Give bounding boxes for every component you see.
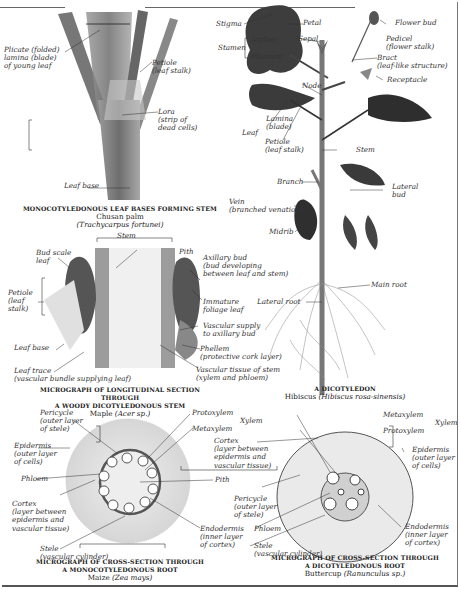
caption-maize-name: Maize (Zea mays) [30,574,210,582]
label-phloem-maize: Phloem [21,475,48,483]
caption-palm-species: (Trachycarpus fortunei) [20,221,220,229]
label-pericycle-buttercup: Pericycle (outer layer of stele) [234,495,277,520]
caption-maize: Micrograph of cross-section through a mo… [30,558,210,582]
caption-hibiscus-common: Hibiscus [285,392,317,401]
label-node: Node [302,82,321,90]
label-stem-maple: Stem [117,232,136,240]
caption-maple-species: (Acer sp.) [115,409,150,418]
label-filament: Filament [251,53,283,61]
label-lora: Lora (strip of dead cells) [158,108,197,133]
caption-palm: Monocotyledonous leaf bases forming stem… [20,205,220,229]
label-petiole-hibiscus: Petiole (leaf stalk) [265,138,304,154]
caption-maize-species: (Zea mays) [112,573,152,582]
label-sepal: Sepal [298,35,318,43]
label-leaf: Leaf [242,129,258,137]
label-pericycle-maize: Pericycle (outer layer of stele) [40,409,83,434]
caption-buttercup-name: Buttercup (Ranunculus sp.) [265,570,445,578]
label-stem-hibiscus: Stem [356,146,375,154]
label-epidermis-maize: Epidermis (outer layer of cells) [14,442,57,467]
label-vascular-supply: Vascular supply to axillary bud [203,322,260,338]
label-lateral-bud: Lateral bud [392,183,418,199]
label-phellem: Phellem (protective cork layer) [200,345,282,361]
label-stigma: Stigma [216,20,242,28]
label-plicate-lamina: Plicate (folded) lamina (blade) of young… [4,46,60,71]
label-endodermis-buttercup: Endodermis (inner layer of cortex) [405,523,449,548]
label-leaf-base-palm: Leaf base [64,182,99,190]
label-receptacle: Receptacle [387,76,427,84]
label-protoxylem-buttercup: Protoxylem [383,427,424,435]
label-petiole-maple: Petiole (leaf stalk) [8,289,33,314]
caption-maize-common: Maize [88,573,110,582]
label-vascular-tissue: Vascular tissue of stem (xylem and phloe… [196,366,280,382]
label-vein: Vein (branched venation) [229,198,303,214]
label-xylem-maize: Xylem [240,417,263,425]
label-pith-maize: Pith [215,476,230,484]
label-endodermis-maize: Endodermis (inner layer of cortex) [200,525,244,550]
label-main-root: Main root [371,281,407,289]
caption-hibiscus-species: (Hibiscus rosa-sinensis) [319,392,406,401]
label-anther: Anther [251,36,276,44]
palm-illustration [58,10,178,200]
label-xylem-buttercup: Xylem [435,419,458,427]
caption-buttercup-title: Micrograph of cross-section through a di… [265,554,445,570]
label-cortex-maize: Cortex (layer between epidermis and vasc… [12,500,69,533]
caption-hibiscus-name: Hibiscus (Hibiscus rosa-sinensis) [275,393,415,401]
label-petiole-palm: Petiole (leaf stalk) [152,59,191,75]
label-bud-scale-leaf: Bud scale leaf [36,249,71,265]
label-stamen: Stamen [218,44,246,52]
caption-maple-common: Maple [90,409,113,418]
label-metaxylem-buttercup: Metaxylem [383,411,423,419]
label-flower-bud: Flower bud [395,19,437,27]
caption-buttercup: Micrograph of cross-section through a di… [265,554,445,578]
label-leaf-trace: Leaf trace (vascular bundle supplying le… [14,367,131,383]
label-pedicel: Pedicel (flower stalk) [386,35,434,51]
label-lamina: Lamina (blade) [266,115,293,131]
label-immature-leaf: Immature foliage leaf [203,298,244,314]
caption-maize-title: Micrograph of cross-section through a mo… [30,558,210,574]
caption-buttercup-species: (Ranunculus sp.) [344,569,406,578]
label-cortex-buttercup: Cortex (layer between epidermis and vasc… [214,437,271,470]
label-leaf-base-maple: Leaf base [14,344,49,352]
label-epidermis-buttercup: Epidermis (outer layer of cells) [412,446,455,471]
label-phloem-buttercup: Phloem [254,525,281,533]
label-petal: Petal [303,19,321,27]
label-metaxylem-maize: Metaxylem [192,425,232,433]
label-protoxylem-maize: Protoxylem [192,409,233,417]
label-pith-maple: Pith [179,248,194,256]
label-bract: Bract (leaf-like structure) [377,54,448,70]
caption-buttercup-common: Buttercup [305,569,342,578]
caption-maple-title: Micrograph of longitudinal section throu… [20,386,220,410]
caption-hibiscus: A dicotyledon Hibiscus (Hibiscus rosa-si… [275,385,415,401]
label-midrib: Midrib [269,228,294,236]
label-axillary-bud: Axillary bud (bud developing between lea… [203,254,288,279]
label-branch: Branch [277,178,303,186]
label-lateral-root: Lateral root [257,298,300,306]
